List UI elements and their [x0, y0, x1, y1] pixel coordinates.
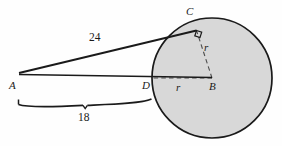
- geometry-figure: A B C D r r 24 18: [0, 0, 282, 146]
- point-label-c: C: [186, 6, 193, 17]
- geometry-canvas: [0, 0, 282, 146]
- point-label-d: D: [142, 80, 150, 91]
- brace-length-label: 18: [78, 112, 90, 124]
- radius-label-bc: r: [204, 42, 208, 53]
- tangent-length-label: 24: [89, 32, 101, 44]
- point-label-b: B: [209, 81, 216, 92]
- brace-18: [19, 99, 152, 109]
- point-label-a: A: [9, 80, 16, 91]
- radius-label-bd: r: [176, 82, 180, 93]
